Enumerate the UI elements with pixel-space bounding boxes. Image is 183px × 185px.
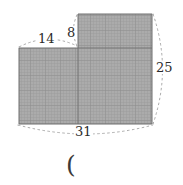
geometry-figure: 14 8 25 31 ( (0, 0, 183, 185)
dimension-endpoint-tick (17, 124, 18, 125)
figure-canvas (0, 0, 183, 185)
dimension-endpoint-tick (18, 46, 19, 47)
caption-paren-symbol: ( (66, 152, 76, 177)
dimension-endpoint-tick (76, 45, 77, 46)
dimension-label-notch-height: 8 (66, 26, 76, 39)
dimension-endpoint-tick (76, 14, 77, 15)
dimension-label-top-left-width: 14 (37, 32, 56, 45)
dimension-label-right-height: 25 (155, 61, 174, 74)
dimension-label-bottom-width: 31 (74, 125, 93, 138)
dimension-endpoint-tick (152, 13, 153, 14)
dimension-endpoint-tick (152, 123, 153, 124)
